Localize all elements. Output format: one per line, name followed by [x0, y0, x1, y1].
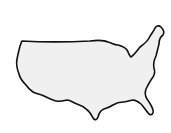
us-outline-map: [0, 0, 171, 133]
contiguous-us-shape: [17, 26, 164, 120]
